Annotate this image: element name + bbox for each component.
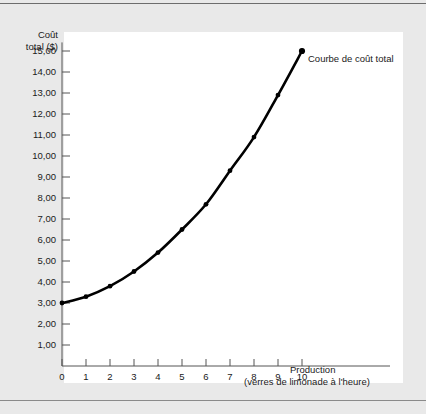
y-axis-title-line1: Coût	[0, 29, 58, 41]
y-tick-label: 10,00	[22, 150, 56, 161]
y-tick-label: 6,00	[22, 234, 56, 245]
data-point-marker	[156, 250, 161, 255]
total-cost-curve	[62, 51, 302, 303]
x-tick-label: 6	[196, 371, 216, 382]
x-tick-label: 2	[100, 371, 120, 382]
data-point-marker	[252, 135, 257, 140]
y-tick-label: 1,00	[22, 339, 56, 350]
data-point-marker	[180, 227, 185, 232]
figure-container: Coût total ($) Production (verres de lim…	[0, 0, 426, 414]
x-tick-label: 8	[244, 371, 264, 382]
y-tick-label: 14,00	[22, 66, 56, 77]
x-tick-label: 0	[52, 371, 72, 382]
y-tick-label: 12,00	[22, 108, 56, 119]
x-tick-label: 3	[124, 371, 144, 382]
curve-annotation-label: Courbe de coût total	[308, 53, 394, 64]
annotation-leader-line	[299, 48, 305, 54]
y-tick-label: 5,00	[22, 255, 56, 266]
y-tick-label: 3,00	[22, 297, 56, 308]
data-point-marker	[132, 269, 137, 274]
data-point-marker	[228, 168, 233, 173]
y-tick-label: 11,00	[22, 129, 56, 140]
axis-ticks-group	[62, 51, 302, 366]
x-tick-label: 4	[148, 371, 168, 382]
x-tick-label: 1	[76, 371, 96, 382]
data-point-marker	[276, 93, 281, 98]
x-tick-label: 5	[172, 371, 192, 382]
y-tick-label: 4,00	[22, 276, 56, 287]
x-tick-label: 9	[268, 371, 288, 382]
axes-group	[62, 42, 390, 366]
data-point-marker	[84, 294, 89, 299]
y-tick-label: 13,00	[22, 87, 56, 98]
data-point-marker	[108, 284, 113, 289]
y-tick-label: 9,00	[22, 171, 56, 182]
x-tick-label: 7	[220, 371, 240, 382]
total-cost-line	[62, 51, 302, 303]
data-point-marker	[204, 202, 209, 207]
y-tick-label: 2,00	[22, 318, 56, 329]
data-point-markers	[60, 49, 305, 306]
x-tick-label: 10	[292, 371, 312, 382]
annotation-anchor-dot	[299, 48, 305, 54]
y-tick-label: 15,00	[22, 45, 56, 56]
y-tick-label: 7,00	[22, 213, 56, 224]
y-tick-label: 8,00	[22, 192, 56, 203]
data-point-marker	[60, 301, 65, 306]
